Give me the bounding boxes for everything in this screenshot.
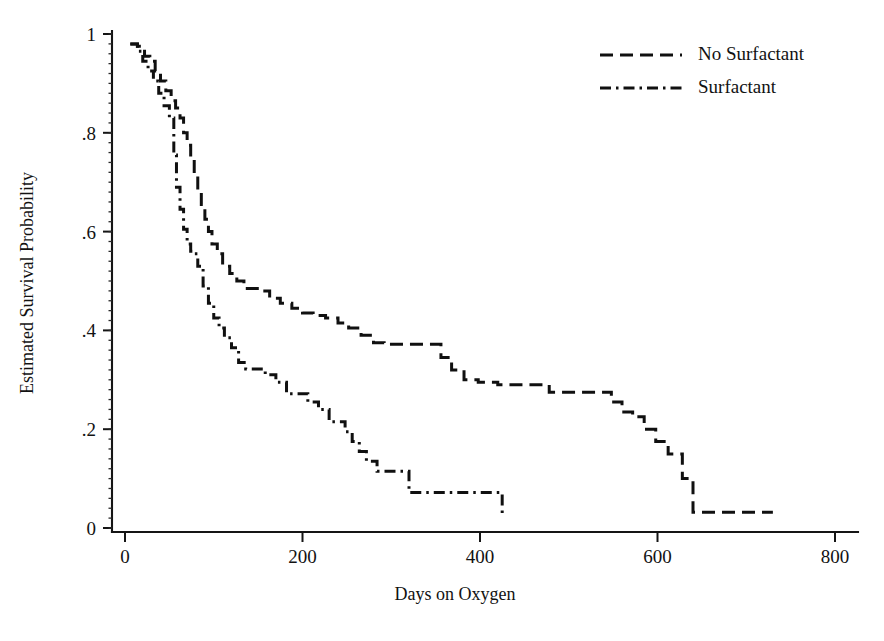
x-tick-label-0: 0 (120, 546, 130, 567)
x-axis-tick-labels: 0200400600800 (120, 546, 849, 567)
x-tick-label-1: 200 (288, 546, 317, 567)
plot-axes (112, 31, 858, 532)
legend-label-1: Surfactant (698, 76, 777, 97)
y-axis-tick-labels: 0.2.4.6.81 (82, 24, 97, 539)
x-tick-label-2: 400 (466, 546, 495, 567)
data-series-layer (130, 44, 773, 518)
x-axis-title: Days on Oxygen (395, 584, 516, 604)
y-tick-label-4: .8 (82, 123, 96, 144)
y-tick-label-2: .4 (82, 320, 97, 341)
y-tick-label-0: 0 (87, 518, 97, 539)
survival-curve-figure: 0.2.4.6.81 0200400600800 Days on Oxygen … (0, 0, 884, 641)
y-tick-label-5: 1 (87, 24, 97, 45)
legend-label-0: No Surfactant (698, 43, 805, 64)
chart-legend: No SurfactantSurfactant (600, 43, 805, 97)
x-tick-label-3: 600 (643, 546, 672, 567)
y-tick-label-1: .2 (82, 419, 96, 440)
chart-canvas: 0.2.4.6.81 0200400600800 Days on Oxygen … (0, 0, 884, 641)
x-axis-ticks (125, 532, 835, 542)
series-path-no-surfactant (130, 44, 773, 512)
series-path-surfactant (130, 44, 502, 518)
y-axis-title: Estimated Survival Probability (17, 172, 37, 394)
x-tick-label-4: 800 (821, 546, 850, 567)
y-tick-label-3: .6 (82, 222, 96, 243)
